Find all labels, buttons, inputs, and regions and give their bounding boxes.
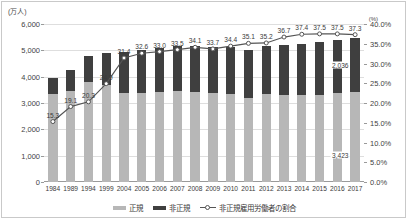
- x-axis-tick-label: 1999: [99, 185, 114, 192]
- legend-item-regular[interactable]: 正規: [113, 202, 143, 213]
- legend-swatch-nonregular-icon: [153, 206, 166, 210]
- legend-swatch-regular-icon: [113, 206, 126, 210]
- y2-axis-tick-label: 20.0%: [370, 99, 406, 108]
- x-axis-tick-label: 2008: [188, 185, 203, 192]
- y-axis-tickmark: [41, 50, 44, 51]
- x-axis-tick-label: 2011: [241, 185, 255, 192]
- x-axis-tick-label: 2017: [348, 185, 363, 192]
- y2-axis-tick-label: 5.0%: [370, 158, 406, 167]
- data-point-label: 37.5: [313, 24, 326, 31]
- data-point-label: 32.6: [135, 43, 148, 50]
- data-point-label: 37.3: [349, 25, 362, 32]
- y2-axis-tick-label: 25.0%: [370, 79, 406, 88]
- x-axis-tick-label: 2012: [259, 185, 274, 192]
- data-point-label: 34.1: [189, 37, 202, 44]
- y-axis-tick-label: 0: [6, 178, 40, 187]
- x-axis-tick-label: 2013: [277, 185, 292, 192]
- bar-value-label-regular: 3,423: [331, 151, 350, 158]
- y2-axis-tick-label: 15.0%: [370, 118, 406, 127]
- data-point-label: 34.4: [224, 36, 237, 43]
- x-axis-tick-label: 1994: [81, 185, 96, 192]
- x-axis-tick-label: 2016: [330, 185, 345, 192]
- x-axis-tick-label: 1984: [46, 185, 61, 192]
- y2-axis-tickmark: [364, 64, 367, 65]
- y-axis-tickmark: [41, 182, 44, 183]
- data-point-label: 20.3: [82, 92, 95, 99]
- data-point-label: 33.5: [171, 40, 184, 47]
- y-axis-unit-label: (万人): [8, 6, 27, 16]
- y-axis-tickmark: [41, 103, 44, 104]
- x-axis-tick-label: 2006: [152, 185, 167, 192]
- y-axis-tickmark: [41, 129, 44, 130]
- chart-legend: 正規 非正規 非正規雇用労働者の割合: [0, 202, 408, 213]
- x-axis-tick-label: 2014: [294, 185, 309, 192]
- y-axis-tick-label: 1,000: [6, 151, 40, 160]
- legend-item-nonregular[interactable]: 非正規: [153, 202, 190, 213]
- bar-value-label-nonregular: 2,036: [331, 62, 350, 69]
- x-axis-tick-label: 2005: [134, 185, 149, 192]
- y2-axis-tickmark: [364, 44, 367, 45]
- y-axis-tick-label: 3,000: [6, 99, 40, 108]
- x-axis-tick-label: 2009: [206, 185, 221, 192]
- legend-label-regular: 正規: [129, 202, 143, 213]
- y-axis-tickmark: [41, 77, 44, 78]
- data-point-label: 37.4: [295, 24, 308, 31]
- data-point-label: 33.0: [153, 42, 166, 49]
- y-axis-tick-label: 2,000: [6, 125, 40, 134]
- y2-axis-tickmark: [364, 143, 367, 144]
- ratio-line-series: [44, 24, 364, 182]
- y-axis-tick-label: 6,000: [6, 20, 40, 29]
- y2-axis-tickmark: [364, 83, 367, 84]
- y2-axis-tickmark: [364, 162, 367, 163]
- data-point-label: 24.9: [100, 74, 113, 81]
- data-point-label: 37.5: [331, 24, 344, 31]
- y-axis-tickmark: [41, 156, 44, 157]
- chart-container: (万人) (%) 15.319.120.324.931.432.633.033.…: [0, 0, 408, 220]
- data-point-label: 31.4: [118, 48, 131, 55]
- x-axis-labels: 1984198919941999200420052006200720082009…: [44, 184, 364, 194]
- y2-axis-tick-label: 35.0%: [370, 39, 406, 48]
- legend-label-nonregular: 非正規: [169, 202, 190, 213]
- data-point-label: 35.2: [260, 33, 273, 40]
- x-axis-tick-label: 2007: [170, 185, 185, 192]
- y2-axis-tick-label: 30.0%: [370, 59, 406, 68]
- legend-label-ratio: 非正規雇用労働者の割合: [219, 202, 296, 213]
- legend-swatch-ratio-line-icon: [200, 205, 216, 211]
- x-axis-tick-label: 2015: [312, 185, 327, 192]
- x-axis-tick-label: 2010: [223, 185, 238, 192]
- y2-axis-tickmark: [364, 123, 367, 124]
- plot-area: 15.319.120.324.931.432.633.033.534.133.7…: [44, 24, 364, 182]
- y2-axis-tick-label: 0.0%: [370, 178, 406, 187]
- y2-axis-tickmark: [364, 24, 367, 25]
- y-axis-tick-label: 5,000: [6, 46, 40, 55]
- data-point-label: 19.1: [64, 97, 77, 104]
- x-axis-tick-label: 1989: [63, 185, 78, 192]
- data-point-label: 15.3: [46, 112, 59, 119]
- legend-item-ratio[interactable]: 非正規雇用労働者の割合: [200, 202, 296, 213]
- y-axis-tickmark: [41, 24, 44, 25]
- y2-axis-tickmark: [364, 103, 367, 104]
- x-axis-tick-label: 2004: [117, 185, 132, 192]
- y2-axis-tick-label: 10.0%: [370, 138, 406, 147]
- y-axis-tick-label: 4,000: [6, 72, 40, 81]
- data-point-label: 36.7: [278, 27, 291, 34]
- data-point-label: 35.1: [242, 33, 255, 40]
- y2-axis-tick-label: 40.0%: [370, 20, 406, 29]
- y2-axis-tickmark: [364, 182, 367, 183]
- data-point-label: 33.7: [206, 39, 219, 46]
